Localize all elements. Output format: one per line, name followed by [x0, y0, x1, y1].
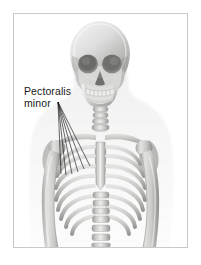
vertebra-l5 [92, 243, 111, 247]
vertebra-c1 [93, 107, 108, 112]
skeleton-svg [14, 14, 187, 247]
spine-column [92, 192, 111, 247]
vertebra-l1 [93, 208, 110, 214]
skeleton-illustration [14, 14, 187, 247]
vertebra-l3 [92, 225, 110, 232]
vertebra-t1 [93, 192, 109, 198]
vertebra-c4 [92, 125, 109, 130]
vertebra-l4 [92, 234, 110, 241]
vertebra-c3 [93, 119, 109, 124]
figure-root: Pectoralisminor [0, 0, 201, 265]
figure-frame: Pectoralisminor [13, 13, 188, 248]
vertebra-l2 [93, 216, 110, 223]
cervical-spine [92, 106, 109, 132]
vertebra-t2 [93, 200, 109, 206]
vertebra-c2 [93, 113, 108, 118]
